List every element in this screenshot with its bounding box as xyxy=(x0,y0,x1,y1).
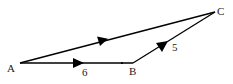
vertex-label-b: B xyxy=(129,65,136,77)
vertex-label-c: C xyxy=(217,5,224,17)
edge-a-c xyxy=(20,12,215,63)
edge-label-bc: 5 xyxy=(172,41,178,53)
arrowhead-icon xyxy=(156,41,168,52)
edge-a-b xyxy=(20,58,133,68)
edge-b-c xyxy=(133,12,215,63)
point-marker xyxy=(121,62,123,64)
arrowhead-icon xyxy=(97,37,108,47)
vertex-label-a: A xyxy=(7,62,15,74)
vector-triangle-diagram: A B C 6 5 xyxy=(0,0,233,84)
edge-label-ab: 6 xyxy=(82,66,88,78)
